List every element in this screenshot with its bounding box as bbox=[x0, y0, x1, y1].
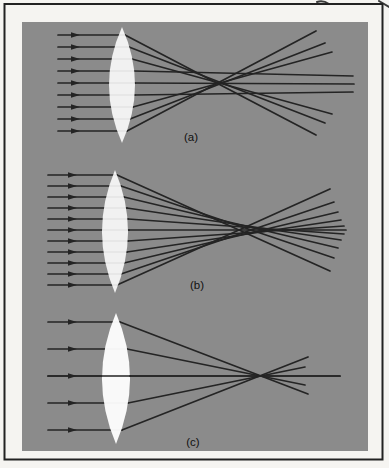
refracted-ray bbox=[135, 83, 354, 84]
spherical-aberration-figure: (a) (b) (c) bbox=[0, 0, 389, 468]
panel-label-b: (b) bbox=[190, 279, 204, 291]
panel-label-a: (a) bbox=[184, 131, 198, 143]
textbook-figure-page: (a) (b) (c) bbox=[0, 0, 389, 468]
panel-label-c: (c) bbox=[186, 436, 200, 448]
